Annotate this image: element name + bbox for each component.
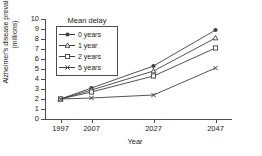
- x-tick: [216, 119, 217, 123]
- y-tick-label: 7: [19, 45, 39, 53]
- legend-item-0-years[interactable]: 0 years: [59, 29, 114, 40]
- x-tick: [154, 119, 155, 123]
- y-tick: [41, 119, 45, 120]
- legend-item-1-year[interactable]: 1 year: [59, 40, 114, 51]
- y-tick-label: 1: [19, 105, 39, 113]
- y-tick-label: 6: [19, 55, 39, 63]
- x-marker-icon: [213, 66, 217, 70]
- y-tick-label: 3: [19, 85, 39, 93]
- legend-item-2-years[interactable]: 2 years: [59, 51, 114, 62]
- x-tick-label: 2027: [134, 124, 174, 133]
- legend-item-label: 0 years: [78, 31, 101, 38]
- y-tick-label: 9: [19, 25, 39, 33]
- triangle-marker-icon: [59, 41, 75, 50]
- triangle-marker-icon: [65, 43, 70, 47]
- y-tick-label: 8: [19, 35, 39, 43]
- square-marker-icon: [59, 52, 75, 61]
- y-tick-label: 5: [19, 65, 39, 73]
- x-axis-line: [45, 119, 232, 120]
- y-tick-label: 10: [19, 15, 39, 23]
- legend-item-label: 5 years: [78, 64, 101, 71]
- y-axis-title: Alzheimer's disease prevalence (millions…: [2, 0, 19, 99]
- y-tick-label: 4: [19, 75, 39, 83]
- x-tick-label: 2007: [72, 124, 112, 133]
- square-marker-icon: [65, 54, 69, 58]
- circle-marker-icon: [213, 28, 217, 32]
- legend-item-label: 1 year: [78, 42, 97, 49]
- x-axis-title: Year: [40, 137, 230, 146]
- chart-figure: Alzheimer's disease prevalence (millions…: [0, 0, 262, 156]
- circle-marker-icon: [59, 30, 75, 39]
- legend-item-label: 2 years: [78, 53, 101, 60]
- x-tick: [92, 119, 93, 123]
- square-marker-icon: [89, 90, 93, 94]
- square-marker-icon: [151, 74, 155, 78]
- chart-legend: Mean delay 0 years1 year2 years5 years: [56, 16, 118, 76]
- circle-marker-icon: [65, 32, 69, 36]
- square-marker-icon: [213, 46, 217, 50]
- y-tick-label: 2: [19, 95, 39, 103]
- legend-title: Mean delay: [56, 16, 118, 25]
- x-tick-label: 2047: [196, 124, 236, 133]
- x-marker-icon: [59, 63, 75, 72]
- triangle-marker-icon: [213, 35, 218, 39]
- x-marker-icon: [65, 65, 69, 69]
- triangle-marker-icon: [151, 68, 156, 72]
- legend-box: 0 years1 year2 years5 years: [56, 26, 118, 76]
- y-tick-label: 0: [19, 115, 39, 123]
- x-tick: [61, 119, 62, 123]
- legend-item-5-years[interactable]: 5 years: [59, 62, 114, 73]
- y-axis-title-text: Alzheimer's disease prevalence (millions…: [2, 0, 18, 84]
